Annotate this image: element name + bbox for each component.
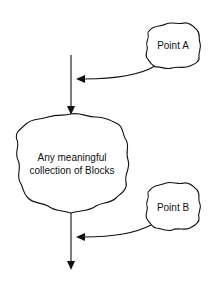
point-a-connector <box>76 66 155 83</box>
entry-arrow <box>67 55 75 115</box>
flow-diagram: Any meaningful collection of Blocks Poin… <box>0 0 211 284</box>
arrowhead-left-icon <box>76 75 85 83</box>
main-block-label-line1: Any meaningful <box>38 152 107 163</box>
point-b-connector <box>76 225 151 241</box>
point-a-label: Point A <box>157 40 189 51</box>
main-block-label-line2: collection of Blocks <box>29 165 114 176</box>
main-block[interactable]: Any meaningful collection of Blocks <box>16 114 128 213</box>
arrowhead-left-icon <box>76 233 85 241</box>
point-b-label: Point B <box>157 202 190 213</box>
point-b-block[interactable]: Point B <box>146 182 200 230</box>
exit-arrow <box>67 213 75 270</box>
arrowhead-down-icon <box>67 261 75 270</box>
point-a-block[interactable]: Point A <box>146 23 201 69</box>
